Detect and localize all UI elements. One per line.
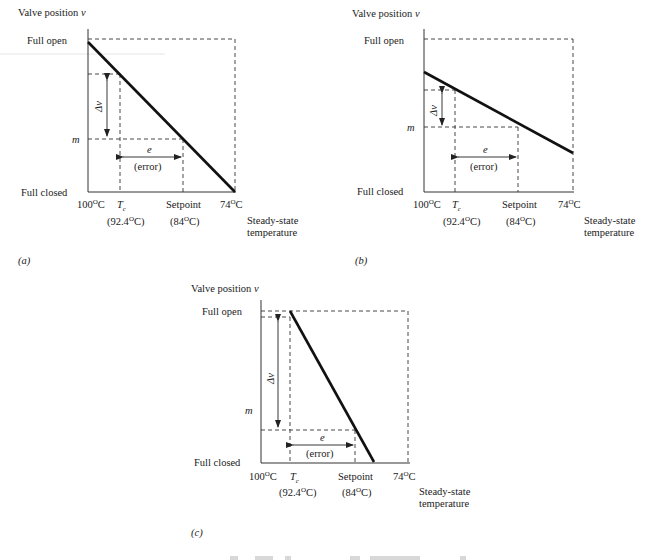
x-label-start: 100OC [77,198,105,210]
x-label-end: 74OC [220,198,243,210]
error-e-label: e [147,144,152,155]
panel-caption: (b) [355,255,368,267]
panel-caption: (a) [18,255,31,267]
x-label-setpoint: Setpoint [166,199,201,210]
valve-characteristic-line [424,72,573,153]
label-full-open: Full open [27,35,68,46]
x-label-setpoint-value: (84OC) [342,486,372,499]
label-full-closed: Full closed [194,457,241,468]
x-axis-title-line2: temperature [419,498,469,509]
x-label-setpoint-value: (84OC) [506,215,536,228]
x-label-tc: Tc [290,471,300,485]
label-full-closed: Full closed [357,186,404,197]
valve-characteristic-line [88,42,235,192]
delta-v-label: Δv [93,101,104,113]
x-axis-title-line1: Steady-state [584,215,636,226]
cropped-text-fragments [230,556,466,560]
x-label-setpoint: Setpoint [502,199,537,210]
x-label-tc: Tc [452,199,462,213]
x-label-start: 100OC [413,198,441,210]
panel-caption: (c) [191,527,203,539]
delta-v-label: Δv [265,373,276,385]
label-full-closed: Full closed [21,187,68,198]
x-label-tc-value: (92.4OC) [443,215,481,228]
label-m: m [407,122,415,133]
error-e-label: e [320,432,325,443]
x-label-tc-value: (92.4OC) [279,486,317,499]
x-label-tc: Tc [117,199,127,213]
x-axis-title-line1: Steady-state [419,486,471,497]
label-full-open: Full open [202,306,243,317]
y-axis-title: Valve position v [18,7,86,18]
x-axis-title-line1: Steady-state [247,215,299,226]
proportional-control-figure: Valve position v Full open m Full closed… [0,0,654,560]
y-axis-title: Valve position v [352,8,420,19]
label-m: m [245,405,253,416]
panel-c: Valve position v Full open m Full closed… [191,283,471,539]
error-e-label: e [483,144,488,155]
error-label: (error) [470,161,498,173]
x-axis-title-line2: temperature [584,227,634,238]
label-full-open: Full open [364,35,405,46]
error-label: (error) [306,448,334,460]
x-label-tc-value: (92.4OC) [107,215,145,228]
delta-v-label: Δv [428,105,439,117]
x-label-start: 100OC [249,470,277,482]
x-label-setpoint-value: (84OC) [170,215,200,228]
label-m: m [72,134,80,145]
panel-b: Valve position v Full open m Full closed… [352,8,636,267]
panel-a: Valve position v Full open m Full closed… [18,7,299,267]
y-axis-title: Valve position v [191,283,259,294]
valve-characteristic-line [290,311,374,462]
x-label-setpoint: Setpoint [338,471,373,482]
x-label-end: 74OC [393,470,416,482]
x-label-end: 74OC [558,198,581,210]
x-axis-title-line2: temperature [247,227,297,238]
error-label: (error) [134,161,162,173]
